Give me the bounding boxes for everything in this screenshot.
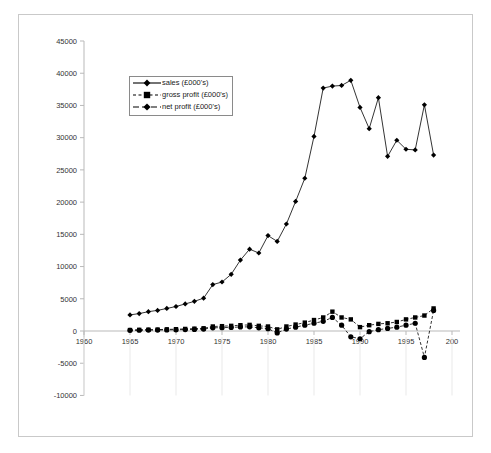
data-point-marker xyxy=(256,250,261,255)
legend-item-sales: sales (£000's) xyxy=(132,77,232,89)
data-point-marker xyxy=(348,334,353,339)
data-point-marker xyxy=(265,233,270,238)
data-point-marker xyxy=(339,315,343,319)
data-point-marker xyxy=(210,282,215,287)
y-tick-label: 10000 xyxy=(56,262,77,271)
data-point-marker xyxy=(404,317,408,321)
legend-label-sales: sales (£000's) xyxy=(162,77,208,89)
data-point-marker xyxy=(330,309,334,313)
data-point-marker xyxy=(192,299,197,304)
series-group xyxy=(127,78,436,360)
data-point-marker xyxy=(155,308,160,313)
data-point-marker xyxy=(127,328,132,333)
legend-symbol-net-profit xyxy=(132,101,162,113)
data-point-marker xyxy=(357,336,362,341)
data-point-marker xyxy=(275,330,280,335)
data-point-marker xyxy=(376,95,381,100)
data-point-marker xyxy=(127,312,132,317)
data-point-marker xyxy=(422,102,427,107)
data-point-marker xyxy=(422,355,427,360)
data-point-marker xyxy=(137,328,142,333)
legend-label-net-profit: net profit (£000's) xyxy=(162,101,220,113)
y-tick-label: 35000 xyxy=(56,101,77,110)
chart-legend: sales (£000's) gross profit (£000's) net… xyxy=(129,76,233,116)
data-point-marker xyxy=(431,152,436,157)
data-point-marker xyxy=(349,317,353,321)
data-point-marker xyxy=(321,319,326,324)
data-point-marker xyxy=(302,176,307,181)
data-point-marker xyxy=(293,199,298,204)
data-point-marker xyxy=(348,78,353,83)
data-point-marker xyxy=(357,105,362,110)
data-point-marker xyxy=(183,301,188,306)
data-point-marker xyxy=(173,304,178,309)
data-point-marker xyxy=(311,321,316,326)
data-point-marker xyxy=(155,327,160,332)
data-point-marker xyxy=(403,323,408,328)
data-point-marker xyxy=(395,320,399,324)
data-point-marker xyxy=(229,325,234,330)
data-point-marker xyxy=(311,134,316,139)
data-point-marker xyxy=(431,308,436,313)
data-point-marker xyxy=(173,327,178,332)
data-point-marker xyxy=(302,323,307,328)
data-point-marker xyxy=(394,325,399,330)
data-point-marker xyxy=(367,126,372,131)
data-point-marker xyxy=(146,327,151,332)
legend-symbol-gross-profit xyxy=(132,89,162,101)
y-tick-label: 40000 xyxy=(56,69,77,78)
data-point-marker xyxy=(330,315,335,320)
data-point-marker xyxy=(321,85,326,90)
data-point-marker xyxy=(137,311,142,316)
x-axis: 19601965197019751980198519901995200 xyxy=(76,331,460,395)
data-point-marker xyxy=(146,309,151,314)
legend-symbol-sales xyxy=(132,77,162,89)
data-point-marker xyxy=(201,296,206,301)
y-tick-label: 25000 xyxy=(56,166,77,175)
data-point-marker xyxy=(385,321,389,325)
y-tick-label: 0 xyxy=(73,327,77,336)
data-point-marker xyxy=(413,147,418,152)
data-point-marker xyxy=(265,326,270,331)
data-point-marker xyxy=(256,325,261,330)
y-tick-label: 30000 xyxy=(56,133,77,142)
data-point-marker xyxy=(238,324,243,329)
data-point-marker xyxy=(385,326,390,331)
data-point-marker xyxy=(376,327,381,332)
y-tick-label: 20000 xyxy=(56,198,77,207)
chart-figure: -10000-500005000100001500020000250003000… xyxy=(0,0,491,453)
data-point-marker xyxy=(413,315,417,319)
data-point-marker xyxy=(358,325,362,329)
plot-area: -10000-500005000100001500020000250003000… xyxy=(0,0,491,453)
legend-item-net-profit: net profit (£000's) xyxy=(132,101,232,113)
data-point-marker xyxy=(367,329,372,334)
y-tick-label: 5000 xyxy=(60,295,77,304)
data-point-marker xyxy=(164,306,169,311)
line-chart-svg: -10000-500005000100001500020000250003000… xyxy=(0,0,491,453)
data-point-marker xyxy=(376,322,380,326)
data-point-marker xyxy=(367,323,371,327)
data-point-marker xyxy=(247,324,252,329)
data-point-marker xyxy=(293,325,298,330)
legend-label-gross-profit: gross profit (£000's) xyxy=(162,89,228,101)
data-point-marker xyxy=(210,325,215,330)
data-point-marker xyxy=(284,221,289,226)
data-point-marker xyxy=(413,321,418,326)
data-point-marker xyxy=(201,326,206,331)
data-point-marker xyxy=(284,326,289,331)
y-tick-label: 15000 xyxy=(56,230,77,239)
y-tick-label: 45000 xyxy=(56,37,77,46)
legend-item-gross-profit: gross profit (£000's) xyxy=(132,89,232,101)
y-tick-label: -10000 xyxy=(54,391,77,400)
data-point-marker xyxy=(219,325,224,330)
data-point-marker xyxy=(183,327,188,332)
data-point-marker xyxy=(422,313,426,317)
data-point-marker xyxy=(164,327,169,332)
y-tick-label: -5000 xyxy=(58,359,77,368)
data-point-marker xyxy=(339,323,344,328)
data-point-marker xyxy=(192,327,197,332)
data-point-marker xyxy=(275,239,280,244)
data-point-marker xyxy=(339,83,344,88)
data-point-marker xyxy=(385,154,390,159)
data-point-marker xyxy=(330,84,335,89)
